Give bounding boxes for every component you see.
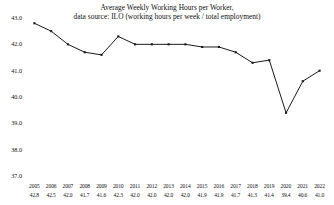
table-row-years: 2005200620072008200920102011201220132014…: [26, 182, 328, 191]
y-axis-tick-label: 39.0: [11, 120, 22, 126]
y-axis-tick-label: 38.0: [11, 147, 22, 153]
table-cell-year: 2009: [93, 182, 110, 191]
table-cell-year: 2022: [311, 182, 328, 191]
y-axis-tick-label: 42.0: [11, 41, 22, 47]
table-cell-year: 2006: [43, 182, 60, 191]
data-point-marker: [268, 59, 270, 61]
data-point-marker: [100, 54, 102, 56]
table-cell-year: 2013: [160, 182, 177, 191]
table-cell-year: 2010: [110, 182, 127, 191]
line-chart-svg: [26, 18, 328, 176]
y-axis: 43.042.041.040.039.038.037.0: [0, 18, 24, 176]
chart-page: Average Weekly Working Hours per Worker,…: [0, 0, 334, 205]
table-cell-year: 2007: [60, 182, 77, 191]
table-cell-value: 40.6: [294, 191, 311, 200]
data-point-marker: [67, 43, 69, 45]
data-point-marker: [168, 43, 170, 45]
table-cell-value: 41.9: [210, 191, 227, 200]
table-cell-year: 2016: [210, 182, 227, 191]
table-cell-year: 2011: [127, 182, 144, 191]
table-row-values: 42.842.542.041.741.642.342.042.042.042.0…: [26, 191, 328, 200]
table-cell-value: 39.4: [277, 191, 294, 200]
table-cell-year: 2008: [76, 182, 93, 191]
table-cell-year: 2014: [177, 182, 194, 191]
table-cell-year: 2015: [194, 182, 211, 191]
data-point-marker: [84, 51, 86, 53]
series-markers: [33, 22, 320, 114]
table-cell-year: 2018: [244, 182, 261, 191]
data-point-marker: [218, 46, 220, 48]
table-cell-value: 41.6: [93, 191, 110, 200]
data-point-marker: [184, 43, 186, 45]
table-cell-value: 42.0: [60, 191, 77, 200]
data-table: 2005200620072008200920102011201220132014…: [26, 182, 328, 202]
table-cell-value: 42.8: [26, 191, 43, 200]
table-cell-value: 42.0: [160, 191, 177, 200]
y-axis-tick-label: 41.0: [11, 68, 22, 74]
data-point-marker: [251, 62, 253, 64]
table-cell-value: 41.7: [227, 191, 244, 200]
table-cell-year: 2020: [277, 182, 294, 191]
data-point-marker: [134, 43, 136, 45]
table-cell-value: 41.9: [194, 191, 211, 200]
table-cell-year: 2005: [26, 182, 43, 191]
table-cell-year: 2017: [227, 182, 244, 191]
series-line: [34, 23, 319, 113]
data-point-marker: [50, 30, 52, 32]
data-point-marker: [33, 22, 35, 24]
y-axis-tick-label: 37.0: [11, 173, 22, 179]
table-cell-value: 41.7: [76, 191, 93, 200]
table-cell-value: 42.0: [177, 191, 194, 200]
data-point-marker: [201, 46, 203, 48]
chart-title-line-1: Average Weekly Working Hours per Worker,: [0, 3, 334, 12]
data-point-marker: [117, 35, 119, 37]
data-point-marker: [319, 70, 321, 72]
y-axis-tick-label: 43.0: [11, 15, 22, 21]
data-table-grid: 2005200620072008200920102011201220132014…: [26, 182, 328, 199]
table-cell-year: 2019: [261, 182, 278, 191]
table-cell-value: 42.0: [143, 191, 160, 200]
table-cell-year: 2012: [143, 182, 160, 191]
plot-area: [26, 18, 328, 176]
table-cell-value: 42.5: [43, 191, 60, 200]
table-cell-year: 2021: [294, 182, 311, 191]
table-cell-value: 41.0: [311, 191, 328, 200]
data-point-marker: [285, 112, 287, 114]
table-cell-value: 42.3: [110, 191, 127, 200]
data-point-marker: [151, 43, 153, 45]
table-cell-value: 42.0: [127, 191, 144, 200]
data-point-marker: [235, 51, 237, 53]
table-cell-value: 41.3: [244, 191, 261, 200]
y-axis-tick-label: 40.0: [11, 94, 22, 100]
table-cell-value: 41.4: [261, 191, 278, 200]
data-point-marker: [302, 80, 304, 82]
